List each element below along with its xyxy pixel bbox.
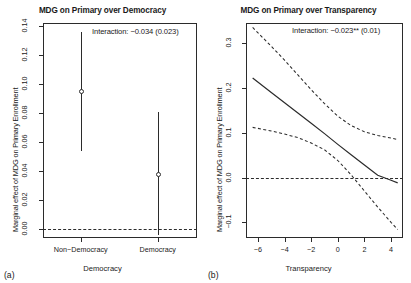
figure-panel-pair: MDG on Primary over Democracy Marginal e… (0, 0, 411, 283)
panel-a-interaction-annotation: Interaction: −0.034 (0.023) (92, 27, 179, 36)
y-tick-mark (242, 88, 246, 89)
x-tick-label: 2 (362, 245, 366, 254)
y-tick-label: 0.3 (224, 31, 233, 55)
point-estimate-marker (79, 89, 84, 94)
y-tick-mark (242, 43, 246, 44)
y-tick-mark (39, 84, 43, 85)
x-tick-mark (391, 238, 392, 242)
panel-b-label: (b) (208, 270, 219, 280)
x-tick-label: Non−Democracy (54, 245, 108, 254)
y-tick-mark (39, 200, 43, 201)
panel-b-plot-area (246, 23, 403, 238)
panel-a-zero-reference-line (43, 229, 197, 230)
y-tick-mark (39, 171, 43, 172)
panel-b-interaction-annotation: Interaction: −0.023** (0.01) (292, 26, 380, 35)
x-tick-label: 4 (389, 245, 393, 254)
y-tick-label: 0.12 (20, 41, 29, 67)
panel-a-label: (a) (4, 270, 15, 280)
panel-b-zero-reference-line (246, 178, 403, 179)
y-tick-label: 0.00 (20, 216, 29, 242)
y-tick-mark (39, 26, 43, 27)
x-tick-mark (258, 238, 259, 242)
y-tick-label: 0.2 (224, 75, 233, 99)
panel-a-democracy: MDG on Primary over Democracy Marginal e… (0, 0, 205, 283)
x-tick-mark (338, 238, 339, 242)
panel-a-plot-area (43, 23, 197, 238)
y-tick-mark (242, 133, 246, 134)
x-tick-label: −6 (254, 245, 262, 254)
y-tick-label: 0.06 (20, 129, 29, 155)
x-tick-mark (364, 238, 365, 242)
panel-a-x-axis-label: Democracy (0, 264, 205, 273)
panel-a-title: MDG on Primary over Democracy (0, 6, 205, 15)
x-tick-mark (311, 238, 312, 242)
x-tick-label: −2 (307, 245, 315, 254)
panel-b-x-axis-label: Transparency (206, 264, 411, 273)
x-tick-label: Democracy (140, 245, 176, 254)
y-tick-mark (242, 222, 246, 223)
x-tick-mark (158, 238, 159, 242)
y-tick-label: −0.1 (224, 210, 233, 234)
y-tick-label: 0.10 (20, 71, 29, 97)
y-tick-label: 0.1 (224, 120, 233, 144)
panel-b-transparency: MDG on Primary over Transparency Margina… (206, 0, 411, 283)
x-tick-mark (285, 238, 286, 242)
x-tick-label: −4 (280, 245, 288, 254)
y-tick-mark (39, 142, 43, 143)
y-tick-label: 0.04 (20, 158, 29, 184)
y-tick-mark (39, 113, 43, 114)
y-tick-label: 0.02 (20, 187, 29, 213)
x-tick-mark (81, 238, 82, 242)
y-tick-label: 0.0 (224, 165, 233, 189)
x-tick-label: 0 (336, 245, 340, 254)
panel-b-title: MDG on Primary over Transparency (206, 6, 411, 15)
y-tick-mark (39, 55, 43, 56)
y-tick-label: 0.08 (20, 100, 29, 126)
y-tick-label: 0.14 (20, 12, 29, 38)
